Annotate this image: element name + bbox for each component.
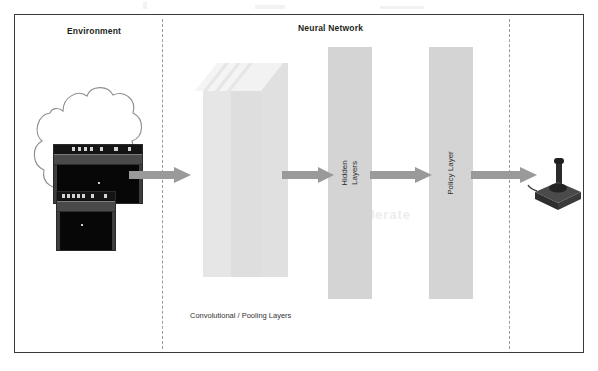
right-arrow-icon-environment-to-conv	[129, 167, 191, 183]
game-hud	[54, 145, 142, 153]
atari-joystick-icon	[527, 156, 589, 218]
convolutional-pooling-layer-stack	[187, 49, 297, 304]
block-hidden-layers: Hidden Layers	[328, 47, 372, 299]
section-title-environment: Environment	[67, 26, 121, 36]
right-arrow-icon-conv-to-hidden	[282, 167, 334, 183]
game-screen-breakout-front	[56, 191, 116, 251]
label-convolutional-pooling-layers: Convolutional / Pooling Layers	[190, 311, 291, 320]
game-brick-band	[54, 154, 142, 165]
game-hud	[57, 192, 115, 200]
scan-speck	[143, 2, 147, 9]
divider-environment-network	[162, 19, 163, 349]
scan-speck	[255, 5, 285, 9]
block-policy-layer: Policy Layer	[429, 47, 473, 299]
label-hidden-layers: Hidden Layers	[340, 160, 360, 185]
right-arrow-icon-hidden-to-policy	[370, 167, 432, 183]
game-playfield	[57, 212, 115, 251]
diagram-frame: mod erate Environment Neural Network	[14, 14, 584, 353]
label-policy-layer: Policy Layer	[446, 151, 456, 195]
section-title-neural-network: Neural Network	[298, 23, 363, 33]
scan-speck	[380, 6, 424, 9]
game-brick-band	[57, 201, 115, 212]
divider-network-action	[509, 19, 510, 349]
scan-smudge: erate	[375, 207, 411, 222]
